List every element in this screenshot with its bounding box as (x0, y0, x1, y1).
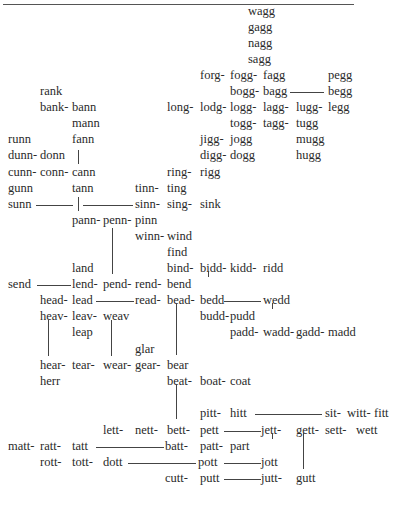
word-node: budd- (200, 309, 229, 323)
word-node: bead- (167, 293, 195, 307)
word-node: gagg (248, 20, 272, 34)
word-node: head- (40, 293, 68, 307)
word-node: digg- (200, 148, 226, 162)
word-node: pend- (103, 277, 131, 291)
word-node: bann (72, 100, 96, 114)
word-node: tagg- (263, 116, 289, 130)
word-node: hear- (40, 358, 65, 372)
word-node: hitt (230, 406, 247, 420)
word-node: mann (72, 116, 100, 130)
word-node: pegg (328, 68, 352, 82)
word-node: heav- (40, 309, 68, 323)
vertical-connector (111, 320, 112, 356)
word-node: wear- (103, 358, 131, 372)
word-node: sunn (8, 197, 32, 211)
word-node: tatt (72, 439, 88, 453)
horizontal-connector (224, 479, 261, 480)
word-node: rank (40, 84, 62, 98)
word-node: dogg (230, 148, 255, 162)
word-node: gunn (8, 181, 33, 195)
word-node: rend- (135, 277, 161, 291)
word-node: pinn (135, 213, 157, 227)
word-node: lead (72, 293, 93, 307)
word-node: bear (167, 358, 189, 372)
word-node: dunn- (8, 148, 37, 162)
word-node: ratt- (40, 439, 61, 453)
word-node: dott (103, 455, 122, 469)
word-node: logg- (230, 100, 256, 114)
word-node: pudd (230, 309, 255, 323)
word-node: putt (200, 471, 219, 485)
word-node: kidd- (230, 261, 256, 275)
word-node: lugg- (296, 100, 322, 114)
word-node: wagg (248, 4, 275, 18)
word-node: pett (200, 423, 219, 437)
word-node: cann (72, 165, 96, 179)
word-node: cunn- (8, 165, 36, 179)
word-node: hugg (296, 148, 321, 162)
word-node: tann (72, 181, 94, 195)
word-node: lett- (103, 423, 123, 437)
word-node: legg (328, 100, 350, 114)
word-node: sagg (248, 52, 271, 66)
horizontal-connector (83, 205, 133, 206)
word-node: leap (72, 325, 93, 339)
horizontal-connector (96, 447, 164, 448)
word-node: tinn- (135, 181, 159, 195)
vertical-connector (208, 271, 209, 277)
word-node: ring- (167, 165, 191, 179)
vertical-connector (78, 197, 79, 211)
vertical-connector (176, 303, 177, 355)
word-node: coat (230, 374, 251, 388)
horizontal-connector (224, 463, 261, 464)
word-node: herr (40, 374, 60, 388)
word-node: donn (40, 148, 65, 162)
word-node: boat- (200, 374, 226, 388)
word-node: nagg (248, 36, 272, 50)
vertical-connector (272, 433, 273, 439)
word-node: cutt- (165, 471, 188, 485)
word-node: pitt- (200, 406, 221, 420)
horizontal-connector (36, 205, 73, 206)
header-rule (3, 4, 354, 5)
vertical-connector (48, 320, 49, 356)
horizontal-connector (128, 463, 196, 464)
word-node: gett- (296, 423, 319, 437)
word-node: bagg (263, 84, 287, 98)
word-node: find (167, 245, 187, 259)
word-node: bind- (167, 261, 193, 275)
word-node: fitt (374, 406, 389, 420)
word-node: witt- (347, 406, 371, 420)
word-node: part (230, 439, 249, 453)
horizontal-connector (96, 301, 134, 302)
word-node: beat- (167, 374, 192, 388)
word-node: winn- (135, 229, 164, 243)
word-node: jutt- (261, 471, 282, 485)
word-node: send (8, 277, 31, 291)
word-node: pott (198, 455, 217, 469)
word-node: read- (135, 293, 161, 307)
word-node: sett- (325, 423, 347, 437)
vertical-connector (112, 228, 113, 274)
word-node: madd (328, 325, 356, 339)
word-node: bidd- (200, 261, 226, 275)
word-node: sit- (325, 406, 341, 420)
word-node: wett (356, 423, 378, 437)
word-node: jogg (230, 132, 252, 146)
word-node: wadd- (263, 325, 294, 339)
word-node: fann (72, 132, 94, 146)
horizontal-connector (224, 431, 261, 432)
word-node: patt- (200, 439, 223, 453)
word-node: penn- (103, 213, 131, 227)
word-node: leav- (72, 309, 97, 323)
word-node: nett- (135, 423, 158, 437)
word-node: sink (200, 197, 221, 211)
word-node: bett- (167, 423, 190, 437)
word-node: long- (167, 100, 193, 114)
word-node: bank- (40, 100, 68, 114)
word-node: togg- (230, 116, 256, 130)
word-node: forg- (200, 68, 225, 82)
word-node: sing- (167, 197, 192, 211)
word-node: tott- (72, 455, 93, 469)
word-node: jott (261, 455, 278, 469)
